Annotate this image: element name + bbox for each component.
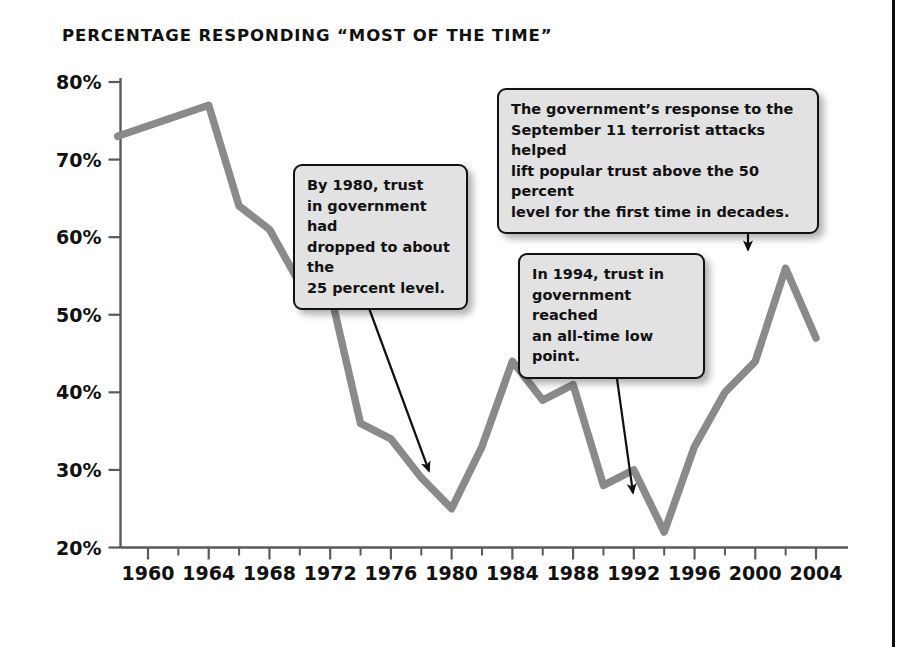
x-tick-label: 1968 — [243, 562, 296, 584]
annotation-callout-september-11: The government’s response to the Septemb… — [497, 88, 819, 234]
x-tick-label: 1972 — [304, 562, 357, 584]
x-tick-label: 1976 — [364, 562, 417, 584]
x-tick-label: 1960 — [122, 562, 175, 584]
y-tick-label: 70% — [56, 149, 101, 171]
chart-page: PERCENTAGE RESPONDING “MOST OF THE TIME”… — [0, 0, 922, 647]
x-tick-label: 2004 — [790, 562, 843, 584]
y-tick-label: 80% — [56, 71, 101, 93]
x-tick-label: 1964 — [182, 562, 235, 584]
x-tick-label: 1988 — [547, 562, 600, 584]
x-axis-ticks — [148, 548, 816, 560]
y-tick-label: 30% — [56, 459, 101, 481]
x-tick-label: 1992 — [607, 562, 660, 584]
annotation-callout-1980-text: By 1980, trust in government had dropped… — [307, 175, 454, 298]
x-tick-label: 1980 — [425, 562, 478, 584]
y-axis-ticks — [109, 82, 121, 548]
annotation-callout-1980: By 1980, trust in government had dropped… — [293, 164, 468, 310]
y-tick-label: 20% — [56, 537, 101, 559]
y-axis-tick-labels: 20%30%40%50%60%70%80% — [56, 71, 101, 559]
annotation-callout-1994: In 1994, trust in government reached an … — [518, 253, 705, 379]
x-tick-label: 1984 — [486, 562, 539, 584]
x-tick-label: 2000 — [729, 562, 782, 584]
annotation-callout-1994-text: In 1994, trust in government reached an … — [532, 264, 691, 367]
annotation-callout-september-11-text: The government’s response to the Septemb… — [511, 99, 805, 222]
x-tick-label: 1996 — [668, 562, 721, 584]
y-tick-label: 40% — [56, 381, 101, 403]
y-tick-label: 50% — [56, 304, 101, 326]
x-axis-tick-labels: 1960196419681972197619801984198819921996… — [122, 562, 843, 584]
y-tick-label: 60% — [56, 226, 101, 248]
